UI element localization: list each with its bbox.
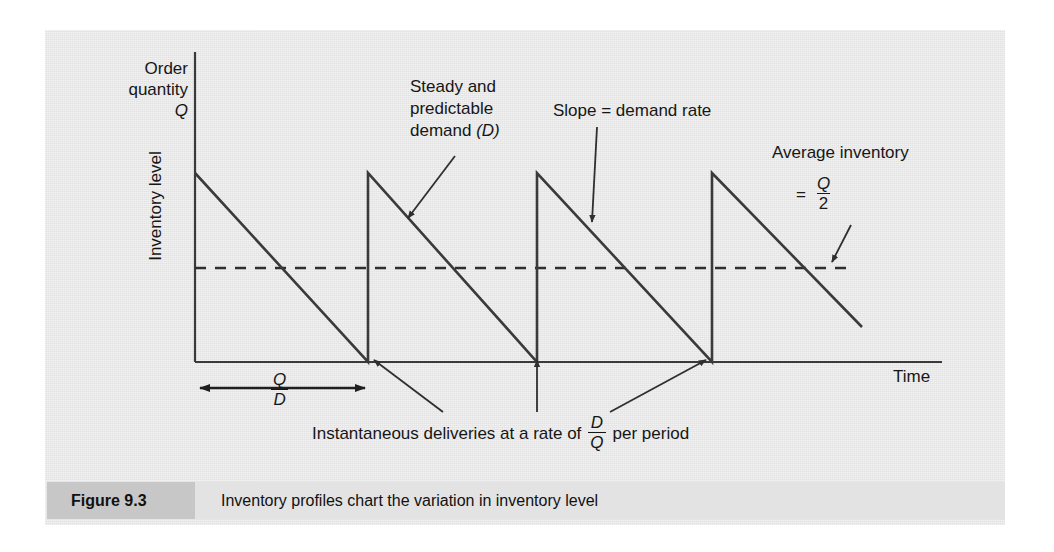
y-axis-title-line1: Order	[145, 59, 188, 78]
fraction-denominator: 2	[817, 193, 830, 212]
fraction-denominator: D	[271, 389, 287, 408]
leader-delivery-1	[374, 360, 443, 412]
steady-demand-symbol: (D)	[476, 121, 500, 140]
delivery-text-before: Instantaneous deliveries at a rate of	[312, 423, 581, 444]
annotation-instantaneous-deliveries: Instantaneous deliveries at a rate of D …	[312, 415, 689, 452]
leader-steady-demand	[408, 156, 455, 218]
figure-root: Order quantity Q Inventory level Time St…	[0, 0, 1054, 552]
steady-demand-line2: predictable	[410, 99, 493, 118]
fraction-numerator: Q	[271, 371, 288, 389]
annotation-average-inventory-formula: = Q 2	[796, 176, 835, 213]
x-axis-label-time: Time	[893, 366, 930, 387]
annotation-average-inventory: Average inventory	[772, 142, 909, 163]
figure-caption-text: Inventory profiles chart the variation i…	[195, 492, 598, 510]
y-axis-label-inventory-level: Inventory level	[146, 146, 166, 266]
delivery-text-after: per period	[613, 423, 690, 444]
fraction-denominator: Q	[588, 432, 605, 451]
annotation-cycle-length-formula: Q D	[268, 372, 291, 409]
steady-demand-line3: demand	[410, 121, 476, 140]
annotation-slope-demand-rate: Slope = demand rate	[553, 100, 711, 121]
equals-sign: =	[796, 185, 806, 205]
figure-number: Figure 9.3	[47, 482, 195, 519]
fraction-numerator: D	[589, 414, 605, 432]
y-axis-title: Order quantity Q	[118, 58, 188, 121]
fraction-q-over-2: Q 2	[815, 175, 832, 212]
fraction-q-over-d: Q D	[271, 371, 288, 408]
leader-average-inventory	[832, 225, 851, 262]
leader-delivery-3	[610, 360, 706, 412]
y-axis-title-line2: quantity	[128, 80, 188, 99]
y-axis-title-symbol: Q	[118, 100, 188, 121]
leader-slope	[592, 127, 597, 222]
fraction-d-over-q: D Q	[588, 414, 605, 451]
annotation-steady-demand: Steady and predictable demand (D)	[410, 76, 540, 142]
fraction-numerator: Q	[815, 175, 832, 193]
steady-demand-line1: Steady and	[410, 77, 496, 96]
figure-caption-bar: Figure 9.3 Inventory profiles chart the …	[47, 482, 1005, 519]
